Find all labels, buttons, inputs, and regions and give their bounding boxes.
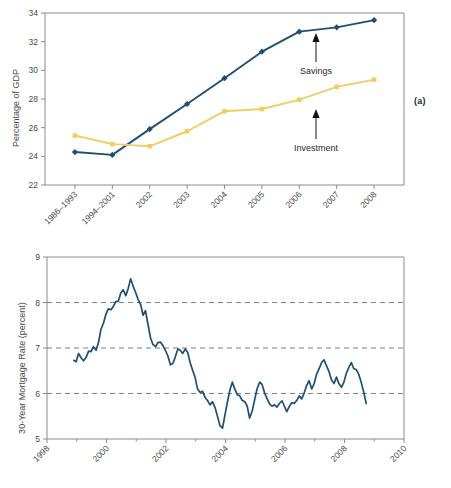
chart-a-y-tick-label: 28	[29, 94, 39, 104]
chart-a-y-tick-label: 34	[29, 8, 39, 18]
chart-a-x-tick-label: 2003	[171, 189, 192, 210]
chart-a-x-ticks: 1986–19931994–20012002200320042005200620…	[42, 185, 379, 226]
chart-b-x-tick-label: 2000	[90, 443, 111, 464]
chart-a-axes	[45, 13, 404, 185]
chart-a-marker	[72, 149, 78, 155]
chart-a-y-tick-label: 32	[29, 37, 39, 47]
chart-a-marker	[334, 24, 340, 30]
chart-a-marker	[297, 97, 302, 102]
chart-a-y-ticks: 22242628303234	[29, 8, 45, 190]
chart-b-svg: 30-Year Mortgage Rate (percent) 56789 19…	[0, 244, 451, 488]
chart-a-x-tick-label: 2007	[321, 189, 342, 210]
chart-a-x-tick-label: 2008	[358, 189, 379, 210]
chart-a-svg: Percentage of GDP 22242628303234 1986–19…	[0, 0, 451, 244]
chart-a-ylabel: Percentage of GDP	[11, 69, 21, 147]
chart-a-marker	[73, 133, 78, 138]
chart-a-x-tick-label: 2006	[283, 189, 304, 210]
chart-b-x-tick-label: 2006	[269, 443, 290, 464]
chart-b-ylabel: 30-Year Mortgage Rate (percent)	[17, 302, 27, 434]
chart-a-marker	[260, 107, 265, 112]
investment-annotation-label: Investment	[294, 143, 339, 153]
chart-b-x-tick-label: 2004	[209, 443, 230, 464]
chart-b-y-tick-label: 7	[35, 343, 40, 353]
chart-b-series-group	[74, 279, 366, 428]
panel-a-tag: (a)	[414, 96, 426, 106]
chart-a-x-tick-label: 2002	[134, 189, 155, 210]
chart-a-x-tick-label: 2004	[208, 189, 229, 210]
chart-b-y-tick-label: 5	[35, 434, 40, 444]
chart-a-y-tick-label: 22	[29, 180, 39, 190]
chart-a-marker	[222, 109, 227, 114]
chart-a-y-tick-label: 24	[29, 151, 39, 161]
investment-annotation: Investment	[294, 109, 339, 153]
figure-container: Percentage of GDP 22242628303234 1986–19…	[0, 0, 451, 488]
chart-a-line-savings	[75, 20, 374, 155]
chart-b-y-tick-label: 9	[35, 252, 40, 262]
chart-a-marker	[371, 17, 377, 23]
chart-a-marker	[372, 77, 377, 82]
chart-a-y-tick-label: 30	[29, 65, 39, 75]
chart-a-marker	[110, 142, 115, 147]
chart-b-y-ticks: 56789	[35, 252, 47, 444]
chart-b-line-mortgage-rate	[74, 279, 366, 428]
chart-b-y-tick-label: 8	[35, 298, 40, 308]
chart-a-marker	[185, 129, 190, 134]
chart-panel-a: Percentage of GDP 22242628303234 1986–19…	[0, 0, 451, 244]
savings-annotation-label: Savings	[300, 66, 333, 76]
chart-a-x-tick-label: 2005	[246, 189, 267, 210]
chart-b-x-tick-label: 2002	[150, 443, 171, 464]
chart-b-x-tick-label: 1998	[31, 443, 52, 464]
chart-b-x-tick-label: 2008	[328, 443, 349, 464]
chart-b-gridlines	[47, 303, 404, 394]
chart-b-y-tick-label: 6	[35, 389, 40, 399]
chart-a-series-group	[72, 17, 377, 158]
chart-b-x-tick-label: 2010	[388, 443, 409, 464]
chart-a-marker	[147, 144, 152, 149]
chart-b-x-ticks: 1998200020022004200620082010	[31, 439, 409, 464]
chart-a-marker	[334, 85, 339, 90]
chart-panel-b: 30-Year Mortgage Rate (percent) 56789 19…	[0, 244, 451, 488]
chart-a-y-tick-label: 26	[29, 123, 39, 133]
chart-a-x-tick-label: 1994–2001	[80, 189, 117, 226]
chart-a-x-tick-label: 1986–1993	[42, 189, 79, 226]
savings-annotation: Savings	[300, 33, 333, 76]
